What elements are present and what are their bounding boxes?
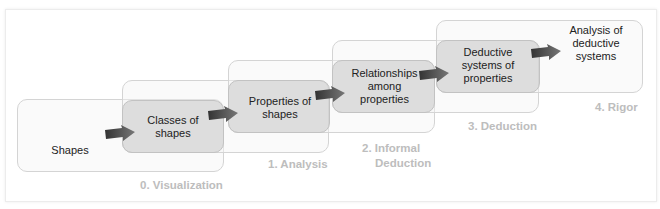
node-deductive-line1: Deductive <box>464 46 513 58</box>
node-properties: Properties of shapes <box>240 95 320 121</box>
node-relationships-line1: Relationships <box>351 67 417 79</box>
level-label-3: 3. Deduction <box>468 120 537 133</box>
node-relationships-line2: among <box>368 80 402 92</box>
arrow-icon <box>419 66 449 84</box>
node-analysis-line1: Analysis of <box>569 24 622 36</box>
arrow-icon <box>208 106 238 124</box>
node-classes: Classes of shapes <box>138 114 208 140</box>
node-relationships: Relationships among properties <box>342 67 427 106</box>
node-properties-line1: Properties of <box>249 95 311 107</box>
node-deductive: Deductive systems of properties <box>448 46 528 85</box>
level-label-2b: Deduction <box>375 157 431 170</box>
node-analysis-line2: deductive <box>572 37 619 49</box>
arrow-icon <box>315 86 345 104</box>
node-classes-line1: Classes of <box>147 114 198 126</box>
level-label-2a: 2. Informal <box>362 142 420 155</box>
level-label-4: 4. Rigor <box>595 101 638 114</box>
node-deductive-line3: properties <box>464 72 513 84</box>
node-deductive-line2: systems of <box>462 59 515 71</box>
arrow-icon <box>531 44 561 62</box>
level-label-0: 0. Visualization <box>140 179 223 192</box>
node-shapes: Shapes <box>40 144 100 157</box>
node-relationships-line3: properties <box>360 93 409 105</box>
node-properties-line2: shapes <box>262 108 297 120</box>
level-label-1: 1. Analysis <box>268 158 328 171</box>
arrow-icon <box>105 125 135 143</box>
node-shapes-text: Shapes <box>51 144 88 156</box>
node-analysis: Analysis of deductive systems <box>556 24 636 63</box>
node-classes-line2: shapes <box>155 127 190 139</box>
node-analysis-line3: systems <box>576 50 616 62</box>
